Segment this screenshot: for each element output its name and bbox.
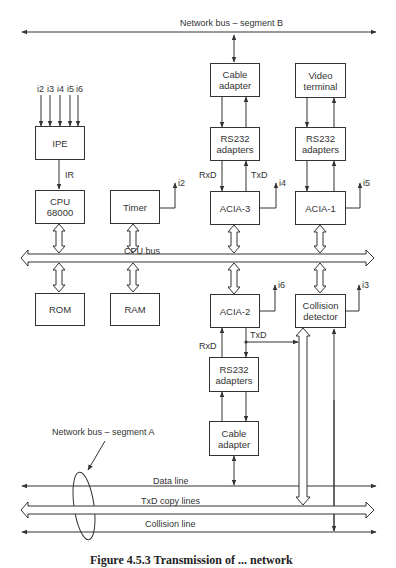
acia1-block: ACIA-1 bbox=[295, 191, 346, 225]
network-bus-b-label: Network bus – segment B bbox=[180, 18, 283, 28]
acia2-irq-label: i6 bbox=[278, 280, 285, 290]
txd-copy-lines-label: TxD copy lines bbox=[141, 496, 200, 506]
collision-line-label: Collision line bbox=[145, 519, 196, 529]
timer-block: Timer bbox=[110, 190, 160, 224]
ipe-block: IPE bbox=[35, 126, 85, 160]
irq-input-label: i5 bbox=[67, 84, 74, 94]
ram-block: RAM bbox=[110, 293, 160, 326]
irq-input-label: i6 bbox=[76, 84, 83, 94]
irq-input-label: i3 bbox=[47, 84, 54, 94]
collision-irq-label: i3 bbox=[362, 280, 369, 290]
rxd-bottom-label: RxD bbox=[199, 341, 217, 351]
irq-input-label: i4 bbox=[57, 84, 64, 94]
acia3-block: ACIA-3 bbox=[210, 191, 260, 225]
cable-adapter-top-block: Cableadapter bbox=[210, 63, 260, 97]
video-terminal-block: Videoterminal bbox=[295, 63, 346, 98]
cpu-bus-label: CPU bus bbox=[124, 246, 160, 256]
ir-label: IR bbox=[65, 170, 74, 180]
rs232-top-left-block: RS232adapters bbox=[210, 127, 260, 161]
collision-detector-block: Collisiondetector bbox=[295, 294, 346, 328]
acia3-irq-label: i4 bbox=[279, 178, 286, 188]
rs232-bottom-block: RS232adapters bbox=[209, 357, 259, 392]
acia1-irq-label: i5 bbox=[363, 178, 370, 188]
timer-irq-label: i2 bbox=[178, 178, 185, 188]
cpu-block: CPU68000 bbox=[35, 190, 85, 224]
txd-bottom-label: TxD bbox=[250, 330, 267, 340]
rom-block: ROM bbox=[35, 293, 85, 326]
rxd-top-label: RxD bbox=[199, 170, 217, 180]
network-bus-a-label: Network bus – segment A bbox=[52, 427, 155, 437]
rs232-top-right-block: RS232adapters bbox=[295, 127, 346, 161]
acia2-block: ACIA-2 bbox=[210, 294, 260, 328]
irq-input-label: i2 bbox=[37, 84, 44, 94]
cable-adapter-bottom-block: Cableadapter bbox=[209, 421, 259, 456]
txd-top-label: TxD bbox=[251, 170, 268, 180]
data-line-label: Data line bbox=[153, 476, 189, 486]
figure-caption: Figure 4.5.3 Transmission of ... network bbox=[90, 553, 293, 568]
